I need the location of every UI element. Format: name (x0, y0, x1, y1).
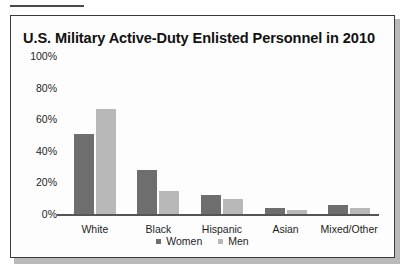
plot-area: 100%80%60%40%20%0% WhiteBlackHispanicAsi… (63, 56, 381, 216)
bar-group: Mixed/Other (317, 56, 381, 214)
x-axis-tick-label: Hispanic (202, 223, 242, 235)
x-axis-line (57, 214, 379, 216)
bar-group: Black (127, 56, 191, 214)
x-axis-tick-label: Mixed/Other (321, 223, 378, 235)
bar-groups: WhiteBlackHispanicAsianMixed/Other (63, 56, 381, 214)
bar-women-asian (265, 208, 285, 214)
bar-men-asian (287, 210, 307, 215)
bar-men-mixed-other (350, 208, 370, 214)
chart-figure: U.S. Military Active-Duty Enlisted Perso… (10, 15, 395, 258)
y-axis-tick-label: 40% (36, 145, 57, 157)
bar-group: Hispanic (190, 56, 254, 214)
x-axis-tick-label: Asian (272, 223, 298, 235)
legend-swatch-icon (218, 239, 223, 244)
y-axis-tick-label: 0% (42, 208, 57, 220)
legend-item-women: Women (156, 235, 202, 247)
bar-women-mixed-other (328, 205, 348, 214)
x-axis-tick-label: Black (146, 223, 172, 235)
legend-label: Men (228, 235, 248, 247)
y-axis-tick-label: 60% (36, 113, 57, 125)
bar-men-hispanic (223, 199, 243, 215)
bar-women-white (74, 134, 94, 215)
legend-swatch-icon (156, 239, 161, 244)
y-axis-tick-label: 80% (36, 82, 57, 94)
legend-item-men: Men (218, 235, 248, 247)
chart-legend: WomenMen (11, 235, 394, 247)
page-rule (10, 5, 84, 7)
bar-men-black (159, 191, 179, 215)
bar-women-hispanic (201, 195, 221, 214)
x-axis-tick-label: White (81, 223, 108, 235)
bar-group: White (63, 56, 127, 214)
y-axis-tick-label: 20% (36, 176, 57, 188)
bar-women-black (137, 170, 157, 214)
legend-label: Women (166, 235, 202, 247)
bar-group: Asian (254, 56, 318, 214)
y-axis-tick-label: 100% (30, 50, 57, 62)
chart-title: U.S. Military Active-Duty Enlisted Perso… (23, 30, 385, 46)
bar-men-white (96, 109, 116, 215)
